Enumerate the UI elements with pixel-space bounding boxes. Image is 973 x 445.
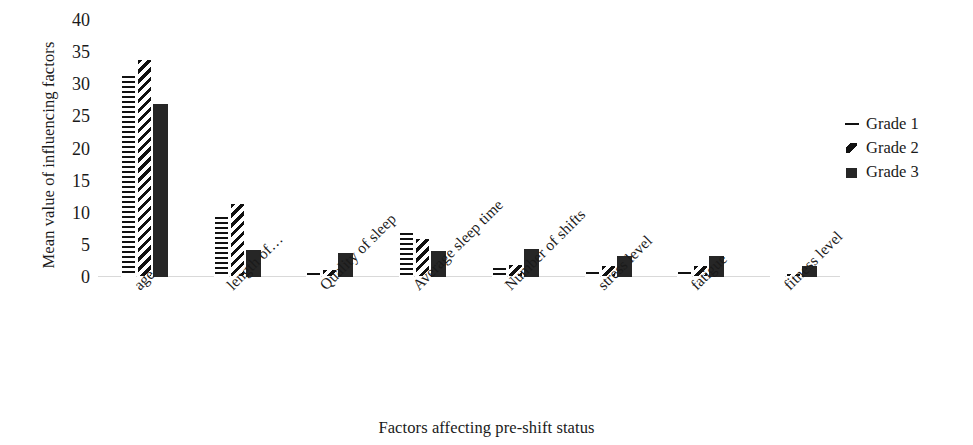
y-axis-tick-label: 10	[72, 204, 90, 222]
y-axis-tick-label: 15	[72, 172, 90, 190]
legend-label: Grade 3	[866, 164, 919, 181]
dash-marker	[845, 117, 859, 131]
x-axis-category-labels: agelength of…Quality of sleepAverage sle…	[98, 277, 840, 397]
y-axis-tick-label: 35	[72, 43, 90, 61]
y-axis-tick-label: 25	[72, 107, 90, 125]
legend-item[interactable]: Grade 3	[845, 160, 973, 184]
bar-chart: Mean value of influencing factors 051015…	[0, 0, 973, 445]
legend-item[interactable]: Grade 2	[845, 136, 973, 160]
bar-group	[98, 20, 191, 277]
diagonal-stroke-marker	[845, 141, 859, 155]
y-axis-tick-label: 5	[81, 236, 90, 254]
chart-legend: Grade 1Grade 2Grade 3	[845, 112, 973, 184]
x-axis-title: Factors affecting pre-shift status	[0, 418, 973, 438]
filled-square-marker	[845, 165, 859, 179]
bar-1[interactable]	[214, 216, 229, 277]
bar-1[interactable]	[399, 232, 414, 277]
legend-label: Grade 2	[866, 140, 919, 157]
y-axis-tick-label: 20	[72, 140, 90, 158]
bar-group	[655, 20, 748, 277]
y-axis-tick-label: 40	[72, 11, 90, 29]
legend-label: Grade 1	[866, 116, 919, 133]
bar-1[interactable]	[121, 75, 136, 277]
y-axis-tick-label: 0	[81, 268, 90, 286]
legend-item[interactable]: Grade 1	[845, 112, 973, 136]
y-axis-tick-labels: 0510152025303540	[48, 0, 90, 445]
bar-2[interactable]	[137, 59, 152, 277]
bar-3[interactable]	[153, 104, 168, 277]
y-axis-tick-label: 30	[72, 75, 90, 93]
